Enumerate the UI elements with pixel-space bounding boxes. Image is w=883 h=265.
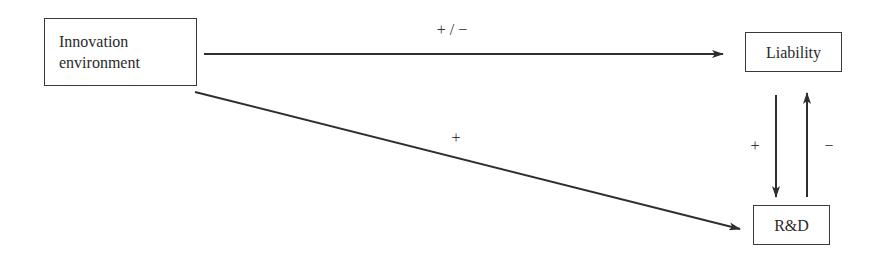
node-liability: Liability [745,32,842,72]
node-innovation-line1: Innovation [59,31,140,52]
node-rd: R&D [753,205,830,245]
node-liability-label: Liability [766,42,821,63]
node-innovation-environment: Innovation environment [44,18,197,86]
node-innovation-line2: environment [59,52,140,73]
edge-label-innovation-liability: + / − [437,21,468,39]
node-rd-label: R&D [774,215,809,236]
diagram-canvas: Innovation environment Liability R&D + /… [0,0,883,265]
edge-label-liability-rd: + [750,137,759,155]
edge-innovation-rd [195,92,740,229]
edge-label-innovation-rd: + [451,129,460,147]
edge-label-rd-liability: − [824,137,833,155]
